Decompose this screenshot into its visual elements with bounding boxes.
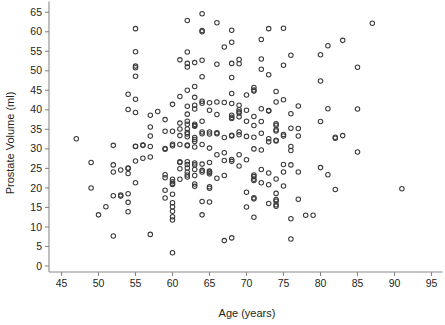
data-point: [200, 119, 205, 124]
data-point: [200, 142, 205, 147]
data-point: [274, 191, 279, 196]
data-point: [266, 140, 271, 145]
data-point: [244, 119, 249, 124]
data-point: [296, 197, 301, 202]
data-point: [318, 53, 323, 58]
data-point: [178, 127, 183, 132]
data-point: [148, 113, 153, 118]
data-point: [296, 104, 301, 109]
data-point: [185, 50, 190, 55]
data-point: [289, 53, 294, 58]
data-point: [126, 171, 131, 176]
y-tick-label: 20: [30, 182, 42, 194]
data-point: [259, 119, 264, 124]
data-point: [141, 156, 146, 161]
data-point: [222, 158, 227, 163]
data-point: [215, 112, 220, 117]
data-point: [259, 167, 264, 172]
data-point: [148, 134, 153, 139]
data-point: [355, 65, 360, 70]
y-tick-label: 15: [30, 201, 42, 213]
data-point: [178, 94, 183, 99]
data-point: [229, 28, 234, 33]
data-point: [355, 107, 360, 112]
data-point: [192, 84, 197, 89]
data-point: [222, 100, 227, 105]
data-point: [118, 168, 123, 173]
data-point: [326, 44, 331, 49]
data-point: [252, 147, 257, 152]
data-point: [281, 63, 286, 68]
data-point: [289, 163, 294, 168]
data-point: [133, 97, 138, 102]
data-point: [200, 12, 205, 16]
data-point: [215, 100, 220, 105]
data-point: [215, 21, 220, 26]
data-point: [296, 134, 301, 139]
data-point: [163, 117, 168, 122]
data-point: [222, 238, 227, 243]
data-point: [148, 155, 153, 160]
data-point: [148, 125, 153, 129]
data-point: [281, 162, 286, 167]
data-point: [237, 103, 242, 108]
data-point: [281, 184, 286, 189]
data-point: [185, 122, 190, 127]
data-point: [296, 126, 301, 131]
y-tick-label: 30: [30, 142, 42, 154]
data-point: [215, 176, 220, 181]
data-point: [259, 131, 264, 136]
y-tick-label: 65: [30, 6, 42, 18]
data-point: [252, 135, 257, 140]
data-point: [207, 200, 212, 205]
y-tick-label: 55: [30, 45, 42, 57]
data-point: [229, 236, 234, 241]
data-point: [192, 167, 197, 172]
data-point: [311, 213, 316, 218]
data-point: [207, 108, 212, 113]
data-point: [237, 164, 242, 169]
data-point: [259, 37, 264, 42]
plot-canvas: 05101520253035404550556065 4550556065707…: [0, 0, 445, 325]
data-point: [185, 104, 190, 109]
data-point: [178, 121, 183, 126]
data-point: [185, 88, 190, 93]
data-point: [259, 148, 264, 153]
data-point: [89, 160, 94, 165]
data-point: [266, 26, 271, 31]
data-point: [222, 135, 227, 140]
data-point: [289, 111, 294, 116]
data-point: [133, 159, 138, 164]
data-point: [244, 205, 249, 210]
data-point: [281, 97, 286, 102]
data-point: [170, 192, 175, 197]
y-tick-label: 25: [30, 162, 42, 174]
data-point: [74, 136, 79, 141]
data-point: [133, 181, 138, 186]
data-point: [163, 176, 168, 181]
data-point: [200, 74, 205, 79]
data-point: [185, 112, 190, 117]
data-point: [274, 100, 279, 105]
data-point: [266, 171, 271, 176]
data-point: [126, 209, 131, 214]
data-point: [303, 213, 308, 218]
data-point: [170, 129, 175, 134]
data-point: [281, 170, 286, 175]
scatter-plot-figure: 05101520253035404550556065 4550556065707…: [0, 0, 445, 325]
data-point: [192, 173, 197, 178]
data-point: [259, 106, 264, 111]
data-point: [266, 72, 271, 77]
data-point: [222, 173, 227, 178]
data-point: [252, 123, 257, 128]
data-point: [237, 152, 242, 157]
data-point: [133, 26, 138, 31]
data-point: [355, 150, 360, 155]
data-point: [296, 170, 301, 175]
data-point: [333, 187, 338, 192]
data-point: [111, 170, 116, 175]
data-point: [126, 192, 131, 197]
data-point: [178, 133, 183, 138]
data-point: [266, 183, 271, 188]
y-tick-label: 50: [30, 64, 42, 76]
